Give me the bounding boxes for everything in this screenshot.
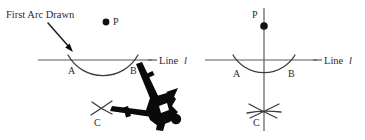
construction-figure: First Arc Drawn P A B C Line l — [0, 0, 365, 140]
right-label-line-l: Line l — [324, 55, 352, 66]
left-panel: First Arc Drawn P A B C Line l — [6, 9, 187, 131]
figure-canvas: First Arc Drawn P A B C Line l — [0, 0, 365, 140]
compass-tool-icon — [110, 62, 181, 131]
right-label-c: C — [253, 117, 260, 128]
left-point-c-cross-icon — [91, 101, 112, 115]
right-label-a: A — [233, 68, 241, 79]
right-line-word: Line — [324, 55, 344, 66]
left-first-arc — [68, 55, 138, 76]
right-label-p: P — [252, 9, 258, 20]
left-line-letter: l — [184, 55, 187, 66]
caption-arrow-icon — [48, 23, 73, 52]
left-label-c: C — [94, 117, 101, 128]
left-line-word: Line — [159, 55, 179, 66]
left-caption-first-arc: First Arc Drawn — [6, 9, 75, 20]
right-line-letter: l — [349, 55, 352, 66]
right-panel: P A B C Line l — [205, 8, 352, 131]
left-label-line-l: Line l — [159, 55, 187, 66]
left-label-b: B — [130, 65, 137, 76]
left-label-p: P — [113, 16, 119, 27]
left-point-p-dot — [103, 19, 110, 26]
left-label-a: A — [68, 65, 76, 76]
right-label-b: B — [288, 68, 295, 79]
right-point-p-dot — [260, 22, 268, 30]
